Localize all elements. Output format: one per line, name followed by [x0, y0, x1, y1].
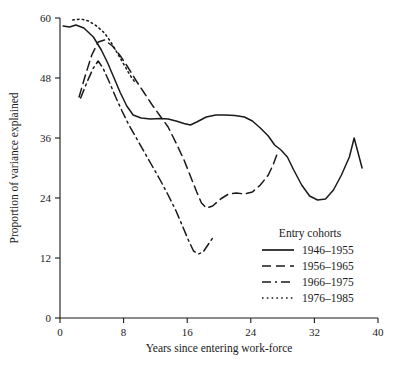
- legend-label-1: 1946–1955: [302, 244, 354, 256]
- series-line-4: [73, 19, 135, 82]
- data-series-group: [63, 19, 362, 254]
- legend-title: Entry cohorts: [279, 227, 342, 240]
- x-tick-label: 0: [57, 326, 63, 338]
- series-line-3: [81, 61, 213, 254]
- x-tick-label: 8: [121, 326, 127, 338]
- x-tick-label: 40: [373, 326, 385, 338]
- line-chart: 081624324001224364860 Years since enteri…: [0, 0, 400, 366]
- y-tick-label: 36: [40, 132, 52, 144]
- y-tick-label: 24: [40, 192, 52, 204]
- legend-label-2: 1956–1965: [302, 260, 354, 272]
- x-tick-label: 24: [245, 326, 257, 338]
- x-tick-label: 32: [309, 326, 320, 338]
- y-tick-label: 48: [40, 72, 52, 84]
- series-line-1: [63, 25, 362, 200]
- y-axis-title: Proportion of variance explained: [8, 92, 21, 243]
- y-tick-label: 60: [40, 12, 52, 24]
- axes: 081624324001224364860: [40, 12, 384, 338]
- x-axis-title: Years since entering work-force: [146, 342, 293, 355]
- legend-label-3: 1966–1975: [302, 276, 354, 288]
- y-tick-label: 12: [40, 252, 51, 264]
- chart-legend: Entry cohorts1946–19551956–19651966–1975…: [262, 227, 354, 304]
- chart-figure: 081624324001224364860 Years since enteri…: [0, 0, 400, 366]
- legend-label-4: 1976–1985: [302, 292, 354, 304]
- y-tick-label: 0: [46, 312, 52, 324]
- x-tick-label: 16: [182, 326, 194, 338]
